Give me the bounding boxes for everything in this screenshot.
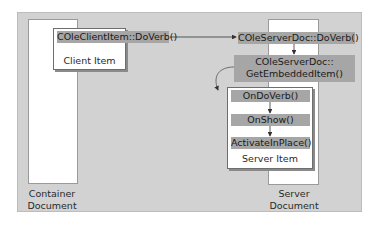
flow-arrows	[0, 0, 377, 230]
arrow-getembedded-to-ondoverb	[216, 67, 234, 90]
